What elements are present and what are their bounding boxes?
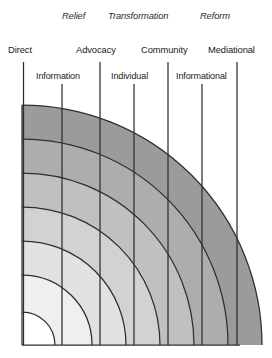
category-label-relief: Relief <box>62 12 85 21</box>
advocacy-spectrum-diagram: ReliefTransformationReform DirectAdvocac… <box>0 0 272 358</box>
category-label-reform: Reform <box>200 12 230 21</box>
tier1-label-advocacy: Advocacy <box>76 45 116 54</box>
tier2-label-informational: Informational <box>176 72 227 81</box>
tier2-label-individual: Individual <box>111 72 148 81</box>
tier2-label-information: Information <box>36 72 80 81</box>
tier1-label-community: Community <box>141 45 188 54</box>
tier1-label-direct: Direct <box>8 45 32 54</box>
category-label-transformation: Transformation <box>108 12 168 21</box>
arc-bands-group <box>22 105 262 345</box>
tier1-label-mediational: Mediational <box>208 45 255 54</box>
